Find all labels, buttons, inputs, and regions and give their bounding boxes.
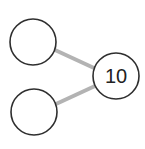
connector-bottom (56, 86, 95, 104)
number-bond-diagram: 10 (0, 0, 145, 149)
part-circle-top[interactable] (10, 19, 56, 65)
part-circle-bottom[interactable] (11, 89, 57, 135)
connector-top (55, 50, 94, 68)
whole-value: 10 (105, 65, 127, 87)
